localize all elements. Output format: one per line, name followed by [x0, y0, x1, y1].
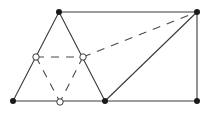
dashed-segment-M1-M3	[36, 57, 60, 102]
filled-point-E	[194, 98, 200, 104]
filled-point-C	[10, 98, 16, 104]
solid-segment-D-B	[105, 12, 197, 101]
dashed-segment-M2-B	[83, 12, 197, 57]
filled-point-D	[102, 98, 108, 104]
filled-point-A	[56, 9, 62, 15]
open-point-M1	[33, 54, 39, 60]
dashed-segment-M2-M3	[60, 57, 83, 102]
open-point-M3	[57, 99, 63, 105]
dashed-edges	[36, 12, 197, 102]
geometry-diagram	[0, 0, 210, 114]
filled-point-B	[194, 9, 200, 15]
vertices	[10, 9, 200, 105]
open-point-M2	[80, 54, 86, 60]
